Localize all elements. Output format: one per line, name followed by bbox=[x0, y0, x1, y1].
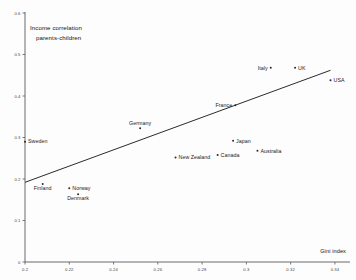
y-tick-label: 0.3 bbox=[14, 135, 21, 140]
y-axis-title-line2: parents-children bbox=[36, 34, 81, 41]
plot-canvas: 0.20.220.240.260.280.30.320.34 00.10.20.… bbox=[0, 0, 356, 280]
data-point-marker[interactable] bbox=[234, 104, 236, 106]
y-tick-label: 0.5 bbox=[14, 52, 21, 57]
data-point-marker[interactable] bbox=[24, 141, 26, 143]
axes-group bbox=[25, 12, 350, 262]
data-point-label: Finland bbox=[34, 185, 52, 191]
y-axis-title: Income correlationparents-children bbox=[30, 24, 82, 41]
trend-line-group bbox=[25, 70, 331, 182]
x-tick-group: 0.20.220.240.260.280.30.320.34 bbox=[22, 262, 340, 272]
y-tick-label: 0.2 bbox=[14, 177, 21, 182]
data-point-label: Germany bbox=[129, 120, 151, 126]
data-point-marker[interactable] bbox=[175, 156, 177, 158]
y-tick-label: 0.6 bbox=[14, 11, 21, 16]
data-point-marker[interactable] bbox=[68, 187, 70, 189]
data-point-label: New Zealand bbox=[179, 154, 211, 160]
data-point-label: Australia bbox=[260, 148, 281, 154]
data-point-label: USA bbox=[334, 77, 345, 83]
x-tick-label: 0.34 bbox=[331, 267, 340, 272]
x-tick-label: 0.22 bbox=[65, 267, 74, 272]
data-point-label: Norway bbox=[72, 185, 91, 191]
data-point-marker[interactable] bbox=[256, 150, 258, 152]
data-point-label: UK bbox=[298, 65, 306, 71]
y-tick-label: 0.4 bbox=[14, 94, 21, 99]
data-point-marker[interactable] bbox=[217, 154, 219, 156]
trend-line bbox=[25, 70, 331, 182]
data-point-marker[interactable] bbox=[139, 127, 141, 129]
y-axis-title-line1: Income correlation bbox=[30, 24, 82, 31]
x-tick-label: 0.32 bbox=[286, 267, 295, 272]
data-point-label: Sweden bbox=[28, 138, 47, 144]
x-tick-label: 0.24 bbox=[109, 267, 118, 272]
y-tick-group: 00.10.20.30.40.50.6 bbox=[14, 11, 25, 265]
data-point-label: Italy bbox=[258, 65, 268, 71]
data-points-group: SwedenFinlandNorwayDenmarkGermanyNew Zea… bbox=[24, 65, 345, 202]
x-axis-title-label: Gini index bbox=[320, 248, 346, 254]
data-point-marker[interactable] bbox=[330, 79, 332, 81]
y-tick-label: 0.1 bbox=[14, 218, 21, 223]
x-tick-label: 0.3 bbox=[243, 267, 250, 272]
x-tick-label: 0.28 bbox=[198, 267, 207, 272]
data-point-label: Denmark bbox=[67, 195, 89, 201]
data-point-marker[interactable] bbox=[294, 67, 296, 69]
data-point-marker[interactable] bbox=[232, 140, 234, 142]
data-point-marker[interactable] bbox=[270, 67, 272, 69]
x-tick-label: 0.26 bbox=[154, 267, 163, 272]
data-point-label: France bbox=[216, 102, 233, 108]
y-tick-label: 0 bbox=[18, 260, 21, 265]
x-tick-label: 0.2 bbox=[22, 267, 29, 272]
data-point-label: Japan bbox=[236, 138, 251, 144]
data-point-label: Canada bbox=[221, 152, 240, 158]
scatter-chart-figure: 0.20.220.240.260.280.30.320.34 00.10.20.… bbox=[0, 0, 356, 280]
x-axis-title: Gini index bbox=[320, 248, 346, 254]
